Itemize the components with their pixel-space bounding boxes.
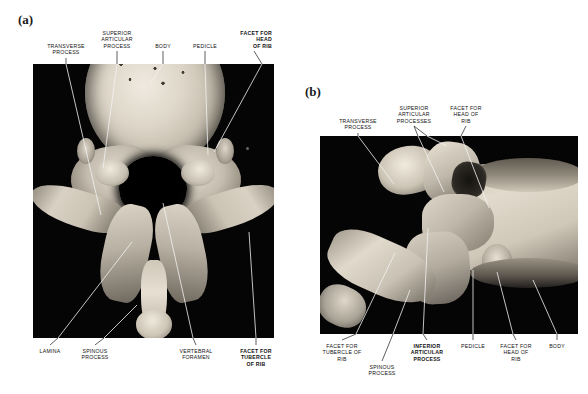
vertebra-photo-lateral xyxy=(320,136,578,334)
label-b-facet-head-of-rib-lower: FACET FOR HEAD OF RIB xyxy=(500,343,531,362)
photo-content-superior xyxy=(33,64,274,338)
leader-b-spinous-process xyxy=(382,334,393,361)
leader-a-facet-head-of-rib xyxy=(254,51,262,64)
leader-b-facet-head-of-rib-lower xyxy=(513,334,516,340)
bone-body-inferior-shade xyxy=(470,258,578,288)
label-b-superior-articular-processes: SUPERIOR ARTICULAR PROCESSES xyxy=(397,105,432,124)
leader-b-facet-head-of-rib xyxy=(461,126,466,136)
label-a-facet-head-of-rib: FACET FOR HEAD OF RIB xyxy=(240,30,272,49)
leader-a-lamina xyxy=(50,338,58,345)
label-a-vertebral-foramen: VERTEBRAL FORAMEN xyxy=(179,348,212,361)
bone-left-superior-articular-process xyxy=(95,160,129,186)
label-b-inferior-articular-process: INFERIOR ARTICULAR PROCESS xyxy=(411,343,444,362)
panel-letter-b: (b) xyxy=(305,84,321,100)
leader-b-facet-tubercle-of-rib xyxy=(342,334,356,340)
photo-speck xyxy=(246,147,249,150)
label-b-pedicle: PEDICLE xyxy=(461,343,485,349)
label-a-body: BODY xyxy=(155,43,171,49)
bone-body-superior-rim xyxy=(472,158,578,192)
label-b-body: BODY xyxy=(549,343,565,349)
leader-b-superior-articular-processes-1 xyxy=(414,126,418,136)
bone-spinous-process-tip xyxy=(136,310,172,338)
label-a-transverse-process: TRANSVERSE PROCESS xyxy=(47,43,85,56)
bone-facet-head-of-rib-right xyxy=(216,138,234,164)
bone-right-superior-articular-process xyxy=(181,160,215,186)
label-b-transverse-process: TRANSVERSE PROCESS xyxy=(339,118,377,131)
leader-a-vertebral-foramen xyxy=(193,338,196,345)
label-b-spinous-process: SPINOUS PROCESS xyxy=(368,364,395,377)
photo-content-lateral xyxy=(320,136,578,334)
label-a-pedicle: PEDICLE xyxy=(193,43,217,49)
label-a-lamina: LAMINA xyxy=(40,348,61,354)
leader-b-inferior-articular-process xyxy=(423,334,427,340)
vertebra-photo-superior xyxy=(33,64,274,338)
label-b-facet-head-of-rib: FACET FOR HEAD OF RIB xyxy=(450,105,481,124)
leader-b-superior-articular-processes-2 xyxy=(414,126,427,136)
anatomy-figure: (a) xyxy=(0,0,588,394)
bone-facet-head-of-rib-left xyxy=(77,138,95,164)
label-b-facet-tubercle-of-rib: FACET FOR TUBERCLE OF RIB xyxy=(322,343,361,362)
leader-a-spinous-process xyxy=(95,338,104,345)
label-a-facet-tubercle-of-rib: FACET FOR TUBERCLE OF RIB xyxy=(240,348,272,367)
label-a-superior-articular-process: SUPERIOR ARTICULAR PROCESS xyxy=(101,30,133,49)
label-a-spinous-process: SPINOUS PROCESS xyxy=(81,348,108,361)
panel-letter-a: (a) xyxy=(18,12,33,28)
